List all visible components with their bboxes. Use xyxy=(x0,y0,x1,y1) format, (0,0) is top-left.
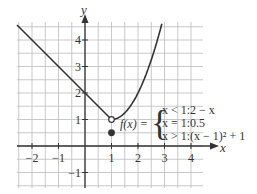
piece-3: x > 1:(x − 1)² + 1 xyxy=(162,129,245,143)
y-tick-label: 2 xyxy=(75,86,81,100)
x-tick-label: −1 xyxy=(52,151,65,165)
piecewise-function-graph: −2−11234−11234xyf(x) ={x < 1:2 − xx = 1:… xyxy=(0,0,257,194)
x-tick-label: 4 xyxy=(188,151,194,165)
open-point xyxy=(109,117,115,123)
piece-2: x = 1:0.5 xyxy=(162,116,205,130)
x-axis-arrow-icon xyxy=(210,143,219,150)
x-tick-label: 3 xyxy=(162,151,168,165)
y-axis-label: y xyxy=(79,2,87,17)
y-tick-label: 1 xyxy=(75,113,81,127)
x-tick-label: 2 xyxy=(135,151,141,165)
x-tick-label: −2 xyxy=(26,151,39,165)
line-2-minus-x xyxy=(17,25,112,120)
closed-point xyxy=(109,130,115,136)
y-tick-label: −1 xyxy=(68,166,81,180)
piece-1: x < 1:2 − x xyxy=(162,103,215,117)
x-tick-label: 1 xyxy=(109,151,115,165)
y-tick-label: 3 xyxy=(75,60,81,74)
y-tick-label: 4 xyxy=(75,33,81,47)
function-label: f(x) = xyxy=(120,117,148,131)
